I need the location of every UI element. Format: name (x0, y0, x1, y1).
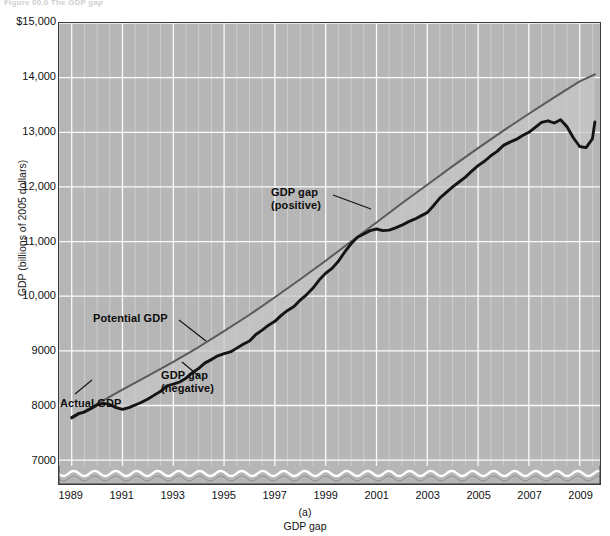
x-axis-tick-1999: 1999 (313, 489, 337, 501)
y-axis-tick-10000: 10,000 (0, 289, 56, 301)
x-axis-tick-1991: 1991 (109, 489, 133, 501)
annotation-gap-negative: GDP gap (negative) (161, 369, 214, 395)
y-axis-tick-9000: 9000 (0, 344, 56, 356)
y-axis-tick-7000: 7000 (0, 454, 56, 466)
x-axis-tick-2003: 2003 (415, 489, 439, 501)
y-axis-tick-labels: 70008000900010,00011,00012,00013,00014,0… (0, 0, 56, 536)
x-axis-tick-1989: 1989 (58, 489, 82, 501)
annotation-actual-gdp: Actual GDP (60, 397, 122, 410)
x-axis-tick-labels: 1989199119931995199719992001200320052007… (0, 489, 610, 507)
annotation-potential-gdp: Potential GDP (93, 312, 168, 325)
series-layer (59, 23, 600, 482)
y-axis-tick-13000: 13,000 (0, 125, 56, 137)
y-axis-tick-14000: 14,000 (0, 70, 56, 82)
figure-root: Figure 00.0 The GDP gap GDP (billions of… (0, 0, 610, 536)
y-axis-tick-15000: $15,000 (0, 15, 56, 27)
x-axis-tick-2005: 2005 (466, 489, 490, 501)
y-axis-tick-8000: 8000 (0, 399, 56, 411)
x-axis-tick-2007: 2007 (517, 489, 541, 501)
x-axis-tick-2009: 2009 (568, 489, 592, 501)
y-axis-tick-12000: 12,000 (0, 180, 56, 192)
y-axis-tick-11000: 11,000 (0, 235, 56, 247)
x-axis-tick-1993: 1993 (160, 489, 184, 501)
actual-gdp-line (72, 120, 595, 418)
plot-area (58, 22, 601, 483)
panel-caption: GDP gap (0, 520, 610, 532)
x-axis-tick-2001: 2001 (364, 489, 388, 501)
gdp-gap-fill (72, 74, 595, 418)
annotation-gap-positive: GDP gap (positive) (271, 186, 321, 212)
x-axis-tick-1995: 1995 (211, 489, 235, 501)
panel-letter: (a) (0, 506, 610, 518)
axis-break-strip (58, 466, 601, 485)
x-axis-tick-1997: 1997 (262, 489, 286, 501)
